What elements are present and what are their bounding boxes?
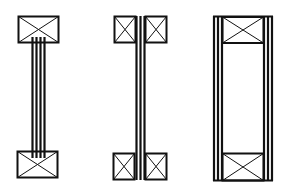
figure-box-beam: [213, 16, 273, 181]
top-flange: [223, 17, 264, 43]
bottom-flange: [223, 154, 264, 181]
top-left-flange-block: [115, 17, 136, 43]
top-flange: [19, 17, 59, 43]
right-side-plies: [264, 16, 272, 181]
beam-sections-diagram: [0, 0, 292, 191]
top-right-flange-block: [146, 17, 167, 43]
figure-i-beam-split-flange: [114, 16, 167, 180]
web-plies: [33, 37, 45, 158]
bottom-right-flange-block: [146, 154, 167, 180]
web-plies: [137, 16, 145, 180]
bottom-left-flange-block: [114, 154, 135, 180]
figure-i-joist-4-ply-web: [18, 17, 59, 178]
left-side-plies: [214, 16, 222, 181]
